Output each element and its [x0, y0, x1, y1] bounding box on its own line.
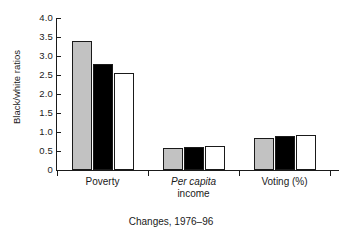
y-axis-tick-label: 4.0 [39, 13, 53, 23]
y-axis-title: Black/white ratios [12, 22, 22, 152]
bar [72, 41, 92, 170]
bar-chart-figure: Black/white ratios 00.51.01.52.02.53.03.… [0, 0, 342, 247]
y-axis-tick-label: 1.5 [39, 108, 53, 118]
y-axis-tick-label: 0 [48, 165, 53, 175]
bar [254, 138, 274, 170]
bar [93, 64, 113, 170]
chart-caption: Changes, 1976–96 [0, 216, 342, 227]
bar [205, 146, 225, 170]
bar [163, 148, 183, 170]
y-axis-tick-label: 1.0 [39, 127, 53, 137]
x-axis-line [56, 170, 339, 171]
category-label: Voting (%) [225, 176, 342, 188]
category-label-line1: Voting (%) [261, 176, 307, 187]
y-axis-tick-label: 3.5 [39, 32, 53, 42]
category-label-line1: Per capita [171, 176, 216, 187]
y-axis-tick-label: 2.5 [39, 70, 53, 80]
bar [296, 135, 316, 170]
bar [184, 147, 204, 170]
y-axis-tick-label: 2.0 [39, 89, 53, 99]
category-label-line1: Poverty [86, 176, 120, 187]
plot-area [57, 18, 330, 170]
bar [275, 136, 295, 170]
category-label-line2: income [134, 188, 254, 200]
y-axis-tick-label: 3.0 [39, 51, 53, 61]
y-axis-tick-label: 0.5 [39, 146, 53, 156]
bar [114, 73, 134, 170]
